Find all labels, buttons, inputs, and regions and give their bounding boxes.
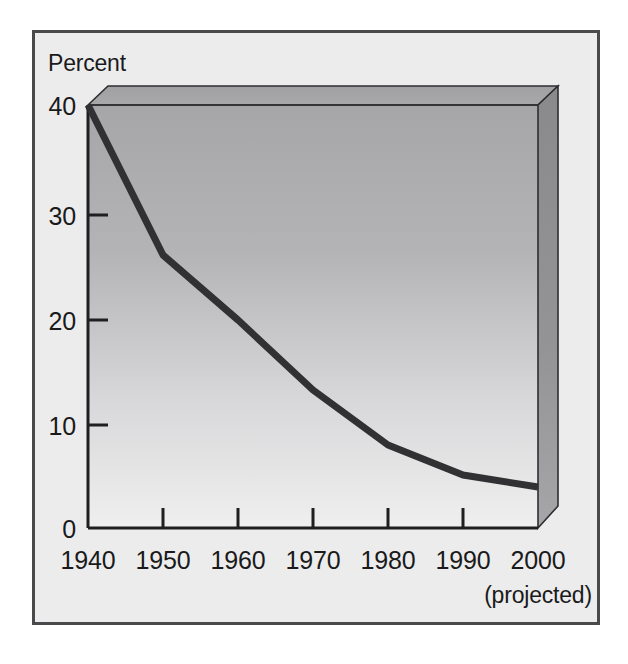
y-axis-title: Percent: [48, 50, 126, 77]
chart-frame: [32, 30, 600, 625]
figure-root: Percent 40 30 20 10 0 1940 1950 1960 197…: [0, 0, 628, 664]
y-tick-label-20: 20: [30, 307, 76, 336]
y-tick-label-40: 40: [30, 92, 76, 121]
y-tick-label-30: 30: [30, 202, 76, 231]
x-tick-label-2000: 2000: [493, 546, 583, 575]
y-tick-label-10: 10: [30, 412, 76, 441]
projected-note: (projected): [463, 582, 613, 609]
y-tick-label-0: 0: [30, 515, 76, 544]
